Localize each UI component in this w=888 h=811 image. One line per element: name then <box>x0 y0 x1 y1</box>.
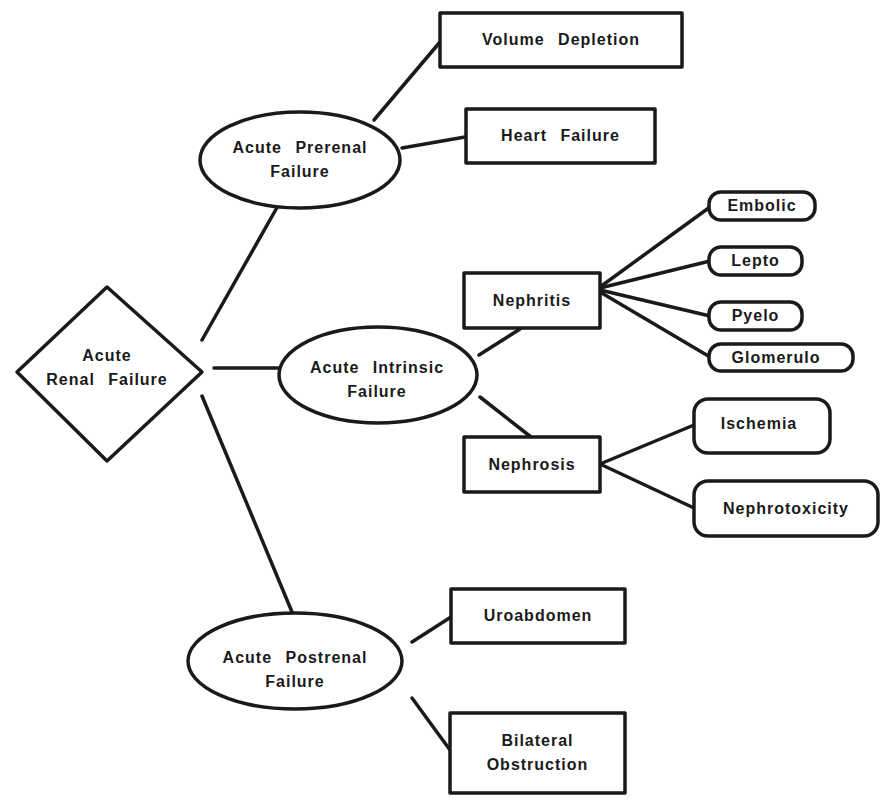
volume-depletion-label: Volume Depletion <box>440 13 682 67</box>
connector-nephrosis-nephrotoxicity <box>600 464 694 508</box>
heart-failure-label: Heart Failure <box>466 109 655 163</box>
postrenal-label-line1: Acute Postrenal <box>223 646 368 670</box>
connector-root-prerenal <box>202 204 279 340</box>
prerenal-label: Acute Prerenal Failure <box>205 132 395 188</box>
lepto-label: Lepto <box>709 247 802 275</box>
prerenal-label-line2: Failure <box>270 160 329 184</box>
nephrosis-label: Nephrosis <box>464 437 600 492</box>
nephrotoxicity-label: Nephrotoxicity <box>694 481 878 536</box>
connector-root-postrenal <box>202 396 292 612</box>
root-label-line1: Acute <box>82 344 131 368</box>
intrinsic-label: Acute Intrinsic Failure <box>282 352 472 408</box>
postrenal-label-line2: Failure <box>265 670 324 694</box>
acute-renal-failure-diagram: Acute Renal Failure Acute Prerenal Failu… <box>0 0 888 811</box>
connector-postrenal-bilateral <box>412 698 450 750</box>
root-label-line2: Renal Failure <box>46 368 167 392</box>
intrinsic-label-line1: Acute Intrinsic <box>310 356 444 380</box>
connector-intrinsic-nephrosis <box>480 397 531 437</box>
glomerulo-label: Glomerulo <box>709 344 843 371</box>
connector-intrinsic-nephritis <box>479 329 520 355</box>
postrenal-label: Acute Postrenal Failure <box>200 642 390 698</box>
connector-nephrosis-ischemia <box>600 425 694 464</box>
bilateral-obstruction-line1: Bilateral <box>501 729 573 753</box>
intrinsic-label-line2: Failure <box>347 380 406 404</box>
connector-postrenal-uroabdomen <box>412 617 451 642</box>
connector-prerenal-volume-depletion <box>374 42 440 120</box>
root-label: Acute Renal Failure <box>40 338 174 398</box>
connector-prerenal-heart-failure <box>402 137 465 148</box>
uroabdomen-label: Uroabdomen <box>451 589 625 643</box>
prerenal-label-line1: Acute Prerenal <box>233 136 368 160</box>
embolic-label: Embolic <box>709 192 815 220</box>
pyelo-label: Pyelo <box>709 302 802 330</box>
bilateral-obstruction-line2: Obstruction <box>487 753 589 777</box>
ischemia-label: Ischemia <box>694 399 824 449</box>
nephritis-label: Nephritis <box>464 273 600 328</box>
bilateral-obstruction-label: Bilateral Obstruction <box>450 713 625 793</box>
